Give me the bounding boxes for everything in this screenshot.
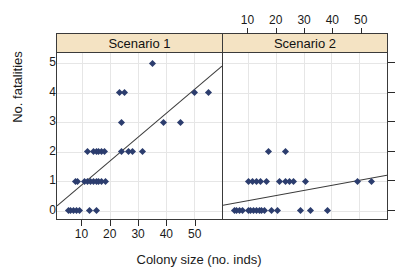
x-tick-label: 50 [180, 227, 210, 241]
x-tick-mark [304, 28, 305, 34]
y-axis: 012345 [22, 52, 56, 220]
y-tick-mark-right [388, 62, 395, 63]
panel-strip-scenario-2: Scenario 2 [222, 33, 388, 53]
y-tick-label: 1 [34, 173, 56, 187]
x-axis-title: Colony size (no. inds) [0, 252, 398, 267]
x-tick-mark [361, 28, 362, 34]
x-tick-label: 40 [317, 13, 347, 27]
x-tick-mark [110, 220, 111, 226]
y-tick-mark-right [388, 180, 395, 181]
x-tick-label: 10 [232, 13, 262, 27]
y-tick-mark-right [388, 121, 395, 122]
panel-scenario-2 [222, 52, 388, 220]
x-tick-label: 40 [151, 227, 181, 241]
x-tick-mark [138, 220, 139, 226]
x-tick-label: 30 [289, 13, 319, 27]
x-tick-label: 50 [346, 13, 376, 27]
y-tick-mark-right [388, 92, 395, 93]
y-axis-right-ticks [388, 52, 396, 220]
y-tick-label: 5 [34, 55, 56, 69]
figure-scatter-colony-fatalities: No. fatalities Colony size (no. inds) 01… [0, 0, 398, 279]
panel-strip-label: Scenario 1 [108, 36, 170, 51]
x-tick-mark [166, 220, 167, 226]
y-tick-label: 2 [34, 144, 56, 158]
y-tick-label: 0 [34, 203, 56, 217]
x-tick-label: 20 [261, 13, 291, 27]
x-tick-mark [195, 220, 196, 226]
y-tick-label: 4 [34, 85, 56, 99]
x-tick-mark [247, 28, 248, 34]
y-tick-label: 3 [34, 114, 56, 128]
x-tick-label: 10 [66, 227, 96, 241]
x-tick-mark [332, 28, 333, 34]
x-axis-top: 1020304050 [222, 6, 388, 34]
panel-strip-scenario-1: Scenario 1 [56, 33, 223, 53]
panel-strip-label: Scenario 2 [274, 36, 336, 51]
x-tick-label: 20 [95, 227, 125, 241]
x-tick-mark [276, 28, 277, 34]
x-tick-label: 30 [123, 227, 153, 241]
regression-line [57, 53, 222, 219]
y-tick-mark-right [388, 151, 395, 152]
x-tick-mark [81, 220, 82, 226]
x-axis-bottom: 1020304050 [56, 220, 223, 250]
panel-scenario-1 [56, 52, 223, 220]
regression-line [223, 53, 387, 219]
y-tick-mark-right [388, 210, 395, 211]
